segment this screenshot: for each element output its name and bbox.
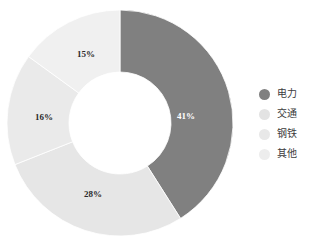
legend-color-swatch-icon (259, 89, 270, 100)
slice-value-label: 16% (35, 112, 53, 122)
legend-item[interactable]: 钢铁 (259, 124, 318, 144)
legend-item-label: 钢铁 (277, 129, 297, 139)
donut-svg (0, 0, 246, 247)
slice-value-label: 41% (177, 111, 195, 121)
legend-color-swatch-icon (259, 149, 270, 160)
legend-item-label: 其他 (277, 149, 297, 159)
slice-value-label: 15% (77, 49, 95, 59)
legend-color-swatch-icon (259, 109, 270, 120)
legend-item-label: 交通 (277, 109, 297, 119)
slice-value-label: 28% (84, 189, 102, 199)
legend-item[interactable]: 其他 (259, 144, 318, 164)
chart-page: 41%28%16%15% 电力交通钢铁其他 (0, 0, 318, 247)
donut-slices-group (7, 10, 233, 236)
donut-chart: 41%28%16%15% (0, 0, 246, 247)
legend-item-label: 电力 (277, 89, 297, 99)
legend-color-swatch-icon (259, 129, 270, 140)
chart-legend: 电力交通钢铁其他 (259, 84, 318, 164)
legend-item[interactable]: 交通 (259, 104, 318, 124)
legend-item[interactable]: 电力 (259, 84, 318, 104)
